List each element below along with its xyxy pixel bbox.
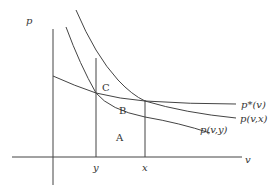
tick-label-y: y [92,162,99,173]
region-label-a: A [115,132,124,143]
region-label-c: C [102,82,110,93]
curve-label-p-vx: p(v,x) [240,113,268,124]
curve-label-p-vy: p(v,y) [200,124,228,135]
curve-p-star [53,76,236,104]
x-axis-label: v [245,154,251,165]
curve-label-p-star: p*(v) [241,99,266,110]
y-axis-label: p [26,15,33,26]
region-label-b: B [119,105,126,116]
tick-label-x: x [142,162,148,173]
diagram-canvas: p v y x C B A p*(v) p(v,x) p(v,y) [0,0,279,193]
curve-p-vy [66,27,210,133]
